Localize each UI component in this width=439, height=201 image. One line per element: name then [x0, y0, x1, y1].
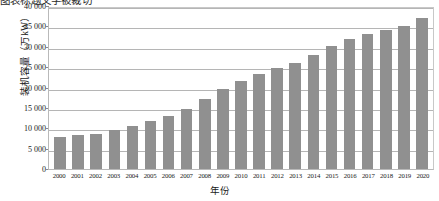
bar	[127, 126, 139, 169]
bar-column	[377, 8, 395, 169]
bar-column	[250, 8, 268, 169]
y-axis-tick-label: 35 000	[12, 23, 46, 31]
x-axis-tick-label: 2018	[377, 171, 395, 183]
bar-column	[341, 8, 359, 169]
bar	[109, 130, 121, 169]
bar	[199, 99, 211, 169]
y-axis-tick-label: 30 000	[12, 44, 46, 52]
y-axis-tick-label: 15 000	[12, 105, 46, 113]
bar	[217, 89, 229, 169]
bar	[145, 121, 157, 169]
bar	[54, 137, 66, 169]
y-axis-tick-label: 25 000	[12, 64, 46, 72]
x-axis-tick-label: 2015	[323, 171, 341, 183]
bar	[163, 116, 175, 169]
bar	[271, 68, 283, 169]
bar-column	[141, 8, 159, 169]
x-axis-tick-label: 2014	[305, 171, 323, 183]
bar-column	[69, 8, 87, 169]
y-axis-tick-label: 40 000	[12, 3, 46, 11]
bar-column	[51, 8, 69, 169]
x-axis-tick-label: 2010	[232, 171, 250, 183]
bar-column	[395, 8, 413, 169]
x-axis-tick-label: 2017	[359, 171, 377, 183]
bar	[253, 74, 265, 169]
bar	[326, 46, 338, 169]
bar	[398, 26, 410, 169]
bar-column	[160, 8, 178, 169]
bar-column	[105, 8, 123, 169]
bar-column	[232, 8, 250, 169]
bar	[362, 34, 374, 169]
bar	[380, 30, 392, 169]
x-axis-tick-label: 2007	[177, 171, 195, 183]
bar	[344, 39, 356, 169]
bar-column	[196, 8, 214, 169]
bar-column	[359, 8, 377, 169]
y-axis-tick-label: 10 000	[12, 125, 46, 133]
plot-area	[48, 7, 434, 170]
x-axis-tick-label: 2001	[68, 171, 86, 183]
x-axis-tick-label: 2011	[250, 171, 268, 183]
x-axis-tick-label: 2016	[341, 171, 359, 183]
bar	[90, 134, 102, 169]
cut-off-header-text: 图表标题文字被裁切	[0, 0, 439, 7]
bar-column	[286, 8, 304, 169]
x-axis-tick-label: 2002	[86, 171, 104, 183]
y-axis-tick-labels: 05 00010 00015 00020 00025 00030 00035 0…	[12, 7, 46, 171]
y-axis-tick-label: 5 000	[12, 146, 46, 154]
x-axis-tick-label: 2009	[214, 171, 232, 183]
bar	[416, 18, 428, 169]
bar	[289, 63, 301, 169]
bar-column	[322, 8, 340, 169]
bar-chart: 装机容量（万kW） 05 00010 00015 00020 00025 000…	[0, 7, 439, 201]
bar-column	[214, 8, 232, 169]
bar	[235, 81, 247, 169]
x-axis-tick-label: 2004	[123, 171, 141, 183]
chart-screenshot: 图表标题文字被裁切 装机容量（万kW） 05 00010 00015 00020…	[0, 0, 439, 201]
bar-column	[87, 8, 105, 169]
bar	[181, 109, 193, 169]
x-axis-tick-labels: 2000200120022003200420052006200720082009…	[48, 171, 434, 183]
x-axis-tick-label: 2019	[396, 171, 414, 183]
bar-series	[49, 8, 433, 169]
cut-off-header-label: 图表标题文字被裁切	[0, 0, 439, 7]
bar	[72, 135, 84, 169]
bar	[308, 55, 320, 169]
bar-column	[413, 8, 431, 169]
x-axis-tick-label: 2008	[196, 171, 214, 183]
y-axis-tick-label: 0	[12, 166, 46, 174]
x-axis-tick-label: 2003	[105, 171, 123, 183]
y-axis-tick-label: 20 000	[12, 85, 46, 93]
x-axis-tick-label: 2013	[286, 171, 304, 183]
bar-column	[268, 8, 286, 169]
x-axis-tick-label: 2000	[50, 171, 68, 183]
bar-column	[123, 8, 141, 169]
x-axis-tick-label: 2012	[268, 171, 286, 183]
x-axis-tick-label: 2006	[159, 171, 177, 183]
x-axis-tick-label: 2020	[414, 171, 432, 183]
bar-column	[304, 8, 322, 169]
bar-column	[178, 8, 196, 169]
x-axis-tick-label: 2005	[141, 171, 159, 183]
x-axis-title: 年份	[0, 183, 439, 197]
